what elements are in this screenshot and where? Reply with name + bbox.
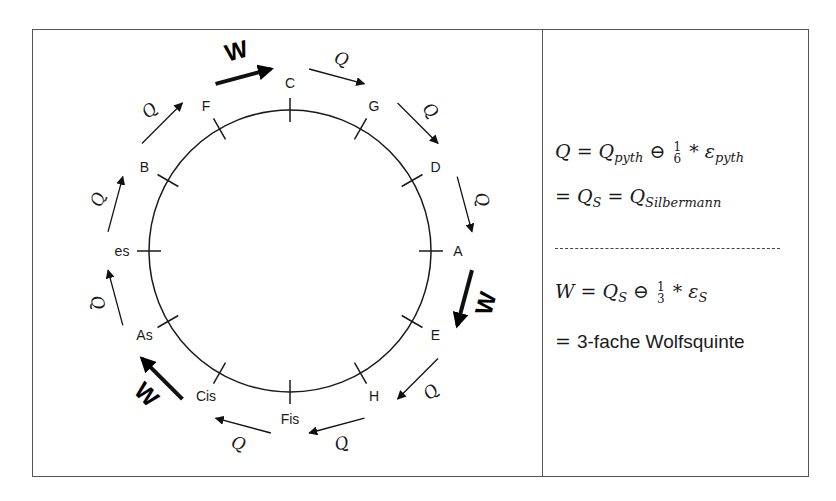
note-label-as: As	[136, 327, 152, 343]
tick-f	[214, 118, 226, 139]
multiply-sign: *	[689, 140, 699, 162]
tick-cis	[214, 363, 226, 384]
formula-q-silbermann: = QS = QSilbermann	[555, 185, 721, 210]
wolf-arrow-a-e	[457, 270, 472, 325]
tick-marks	[137, 98, 443, 404]
panel-divider	[542, 29, 543, 477]
note-label-g: G	[369, 98, 380, 114]
tick-d	[402, 175, 423, 187]
quint-label-h-fis: Q	[332, 432, 351, 455]
quint-label-es-b: Q	[86, 190, 109, 209]
tick-b	[157, 175, 178, 187]
ominus-operator: ⊖	[649, 140, 665, 162]
tick-g	[355, 118, 367, 139]
quint-arrow-es-b	[108, 177, 123, 232]
tick-as	[157, 316, 178, 328]
quint-label-d-a: Q	[471, 190, 494, 209]
epsilon-symbol: ε	[688, 280, 698, 302]
equals-sign: =	[608, 185, 624, 207]
wolf-fifth-text: 3-fache Wolfsquinte	[577, 331, 745, 352]
tick-e	[402, 316, 423, 328]
equals-sign: =	[581, 280, 597, 302]
quint-label-b-f: Q	[137, 98, 161, 122]
quint-arrow-fis-cis	[216, 418, 271, 433]
w-symbol: W	[555, 280, 575, 302]
quint-arrow-h-fis	[309, 418, 364, 433]
wolf-label-f-c: W	[222, 35, 251, 67]
circle-of-fifths-diagram: CGDAEHFisCisAsesBF QQQWQQQWQQQW	[0, 0, 540, 501]
fraction-one-third: 13	[657, 281, 665, 305]
s-subscript: S	[593, 195, 602, 210]
q-s-symbol: Q	[577, 185, 593, 207]
wolf-label-a-e: W	[470, 289, 502, 318]
note-label-h: H	[369, 388, 379, 404]
ominus-operator: ⊖	[633, 280, 649, 302]
q-silbermann-symbol: Q	[629, 185, 645, 207]
q-s-symbol: Q	[603, 280, 619, 302]
quint-label-fis-cis: Q	[229, 432, 248, 455]
quint-label-g-d: Q	[419, 98, 443, 122]
pyth-subscript: pyth	[715, 150, 744, 165]
q-pyth-symbol: Q	[599, 140, 615, 162]
quint-arrow-c-g	[309, 69, 364, 84]
quint-label-e-h: Q	[419, 380, 443, 404]
formula-wolf-description: = 3-fache Wolfsquinte	[555, 330, 745, 353]
note-label-fis: Fis	[281, 411, 300, 427]
fraction-one-sixth: 16	[673, 141, 681, 165]
note-label-c: C	[285, 75, 295, 91]
pyth-subscript: pyth	[614, 150, 643, 165]
s-subscript: S	[698, 290, 707, 305]
note-label-es: es	[115, 243, 130, 259]
quint-label-as-es: Q	[86, 293, 109, 312]
note-label-b: B	[140, 159, 149, 175]
quint-arrow-d-a	[457, 177, 472, 232]
fifths-circle	[149, 110, 431, 392]
note-label-a: A	[453, 243, 463, 259]
tick-h	[355, 363, 367, 384]
epsilon-symbol: ε	[705, 140, 715, 162]
note-label-e: E	[431, 327, 440, 343]
note-label-cis: Cis	[196, 388, 216, 404]
wolf-arrow-f-c	[216, 69, 271, 84]
s-subscript: S	[618, 290, 627, 305]
note-label-f: F	[202, 98, 211, 114]
dashed-separator	[555, 248, 780, 249]
equals-sign: =	[555, 330, 571, 352]
multiply-sign: *	[673, 280, 683, 302]
note-label-d: D	[430, 159, 440, 175]
quint-label-c-g: Q	[332, 47, 351, 70]
note-labels: CGDAEHFisCisAsesBF	[115, 75, 464, 427]
equals-sign: =	[555, 185, 571, 207]
equals-sign: =	[577, 140, 593, 162]
formula-w-definition: W = QS ⊖ 13 * εS	[555, 280, 707, 305]
q-symbol: Q	[555, 140, 571, 162]
quint-arrow-as-es	[108, 270, 123, 325]
wolf-label-cis-as: W	[129, 377, 164, 412]
formula-q-definition: Q = Qpyth ⊖ 16 * εpyth	[555, 140, 744, 165]
silbermann-subscript: Silbermann	[645, 195, 721, 210]
